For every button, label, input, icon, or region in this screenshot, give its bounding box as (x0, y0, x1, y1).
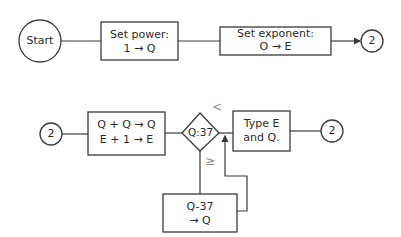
subtract-line2: → Q (163, 214, 237, 227)
subtract-line1: Q-37 (163, 200, 237, 213)
type-output-line1: Type E (233, 117, 290, 130)
set-power-line2: 1 → Q (101, 42, 178, 55)
connector-2-in-label: 2 (40, 127, 62, 140)
less-than-label: < (212, 100, 222, 114)
set-exponent-line2: O → E (220, 40, 331, 53)
connector-2-out-label: 2 (361, 34, 383, 47)
geq-label: ≥ (205, 154, 215, 168)
start-label: Start (19, 34, 61, 47)
set-power-line1: Set power: (101, 28, 178, 41)
connector-2-out-row2-label: 2 (321, 124, 343, 137)
double-line2: E + 1 → E (88, 133, 165, 146)
set-exponent-line1: Set exponent: (220, 27, 331, 40)
type-output-line2: and Q. (233, 131, 290, 144)
decision-label: Q:37 (182, 126, 219, 139)
double-line1: Q + Q → Q (88, 118, 165, 131)
